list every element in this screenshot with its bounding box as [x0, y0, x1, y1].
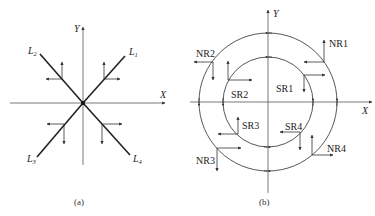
label-l2: L2	[27, 45, 38, 57]
label-nr4: NR4	[327, 143, 346, 154]
figure: X Y L1 L2 L3 L4 (a)	[0, 0, 375, 216]
label-nr3: NR3	[196, 155, 215, 166]
label-nr2: NR2	[196, 48, 215, 59]
x-axis-label: X	[159, 89, 167, 100]
label-sr4: SR4	[285, 121, 302, 132]
label-sr3: SR3	[242, 120, 259, 131]
line-l3	[37, 103, 83, 157]
y-axis-label: Y	[273, 8, 280, 19]
label-nr1: NR1	[329, 38, 348, 49]
y-axis-label: Y	[74, 23, 81, 34]
caption-a: (a)	[74, 197, 84, 207]
x-axis-label: X	[361, 105, 369, 116]
caption-b: (b)	[259, 197, 270, 207]
panel-a: X Y L1 L2 L3 L4 (a)	[10, 23, 167, 207]
line-l2	[40, 54, 83, 103]
label-sr2: SR2	[231, 89, 248, 100]
panel-b: X Y NR1 SR1 NR2 SR2 SR3 NR3 SR4 NR4 (b)	[190, 8, 372, 207]
label-sr1: SR1	[276, 83, 293, 94]
label-l3: L3	[26, 153, 37, 165]
origin-point	[81, 101, 85, 105]
line-l4	[83, 103, 130, 155]
label-l1: L1	[128, 46, 138, 58]
label-l4: L4	[132, 153, 143, 165]
